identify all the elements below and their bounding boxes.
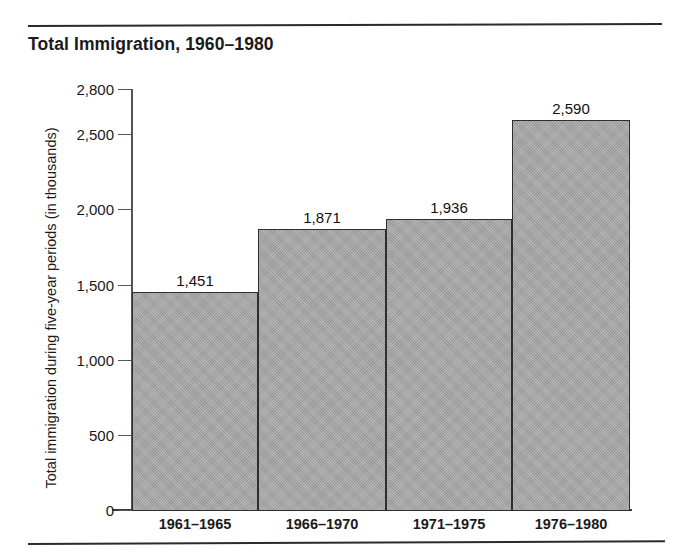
x-category-label-1961-1965: 1961–1965 xyxy=(132,516,258,532)
y-tick-0 xyxy=(118,510,132,511)
x-category-label-1966-1970: 1966–1970 xyxy=(258,516,386,532)
y-tick-2500 xyxy=(118,134,132,135)
y-tick-500 xyxy=(118,435,132,436)
y-tick-1000 xyxy=(118,360,132,361)
y-axis-title: Total immigration during five-year perio… xyxy=(43,98,59,518)
bar-1971-1975[interactable] xyxy=(386,219,512,511)
x-category-label-1976-1980: 1976–1980 xyxy=(512,516,630,532)
y-tick-2000 xyxy=(118,209,132,210)
bar-1961-1965[interactable] xyxy=(132,292,258,511)
bar-value-1976-1980: 2,590 xyxy=(512,100,630,117)
bar-value-1966-1970: 1,871 xyxy=(258,209,386,226)
bar-1966-1970[interactable] xyxy=(258,229,386,511)
bar-value-1971-1975: 1,936 xyxy=(386,199,512,216)
bar-chart: 2,800 2,500 2,000 1,500 1,000 500 0 Tota… xyxy=(0,0,675,560)
y-tick-label-2800: 2,800 xyxy=(42,81,114,98)
y-tick-1500 xyxy=(118,285,132,286)
bar-1976-1980[interactable] xyxy=(512,120,630,511)
y-tick-2800 xyxy=(118,89,132,90)
x-category-label-1971-1975: 1971–1975 xyxy=(386,516,512,532)
bar-value-1961-1965: 1,451 xyxy=(132,272,258,289)
bar-series: 1,451 1,871 1,936 2,590 xyxy=(132,0,630,560)
